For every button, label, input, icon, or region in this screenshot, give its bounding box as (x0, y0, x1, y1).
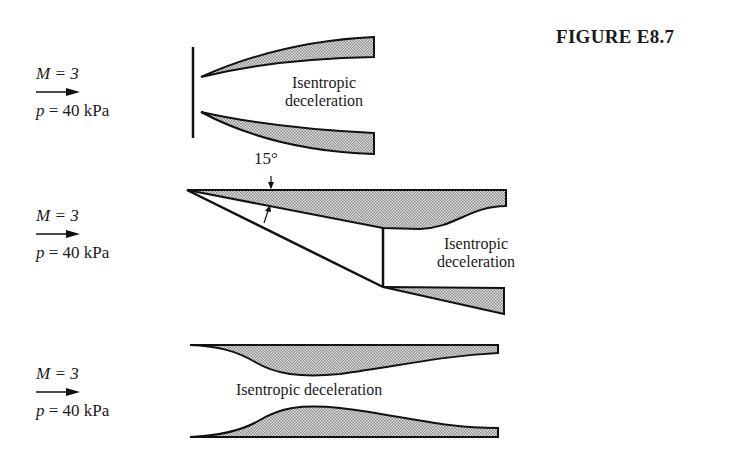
pressure-label: p = 40 kPa (36, 243, 109, 263)
upper-contour-wall (190, 345, 498, 376)
flow-conditions-1: M = 3 p = 40 kPa (36, 64, 109, 121)
pressure-var: p (36, 401, 45, 420)
isentropic-label-1: Isentropic deceleration (274, 74, 374, 110)
pressure-value: = 40 kPa (45, 101, 110, 120)
pressure-label: p = 40 kPa (36, 101, 109, 121)
figure-title: FIGURE E8.7 (556, 26, 674, 48)
pressure-value: = 40 kPa (45, 243, 110, 262)
upper-wedge-body (187, 190, 506, 229)
angle-arrowhead-top (268, 182, 274, 189)
upper-diffuser-wall (201, 37, 374, 77)
label-line-1: Isentropic (426, 235, 526, 253)
flow-arrow-icon (36, 228, 80, 240)
flow-arrow-icon (36, 386, 80, 398)
flow-conditions-3: M = 3 p = 40 kPa (36, 364, 109, 421)
pressure-label: p = 40 kPa (36, 401, 109, 421)
lower-diffuser-wall (201, 112, 374, 154)
flow-arrow-icon (36, 86, 80, 98)
pressure-value: = 40 kPa (45, 401, 110, 420)
lower-cowl-body (383, 287, 504, 314)
angle-label: 15° (254, 150, 278, 168)
pressure-var: p (36, 243, 45, 262)
mach-label: M = 3 (36, 64, 109, 84)
label-line-2: deceleration (426, 253, 526, 271)
mach-label: M = 3 (36, 364, 109, 384)
flow-conditions-2: M = 3 p = 40 kPa (36, 206, 109, 263)
mach-label: M = 3 (36, 206, 109, 226)
isentropic-label-2: Isentropic deceleration (426, 235, 526, 271)
lower-contour-wall (190, 407, 498, 438)
isentropic-label-3: Isentropic deceleration (236, 381, 382, 399)
pressure-var: p (36, 101, 45, 120)
label-line-2: deceleration (274, 92, 374, 110)
label-line-1: Isentropic (274, 74, 374, 92)
